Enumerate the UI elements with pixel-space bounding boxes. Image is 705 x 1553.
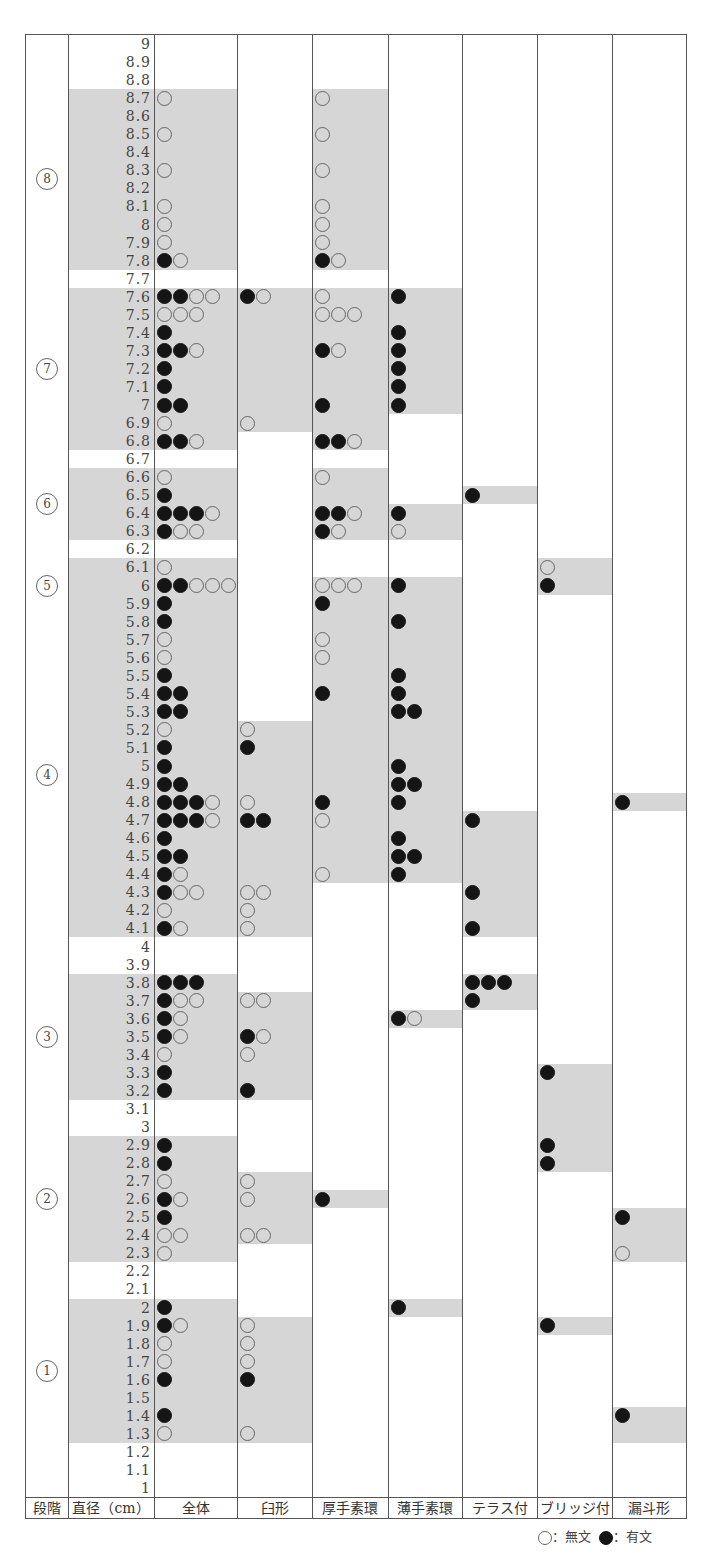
open-circle-icon <box>256 885 271 900</box>
open-circle-icon <box>256 1228 271 1243</box>
open-circle-icon <box>189 524 204 539</box>
filled-circle-icon <box>240 813 255 828</box>
open-circle-icon <box>315 163 330 178</box>
filled-circle-icon <box>157 1318 172 1333</box>
stage-label: 1 <box>36 1360 58 1382</box>
stage-label: 6 <box>36 493 58 515</box>
diameter-label: 8.6 <box>70 107 151 125</box>
open-circle-icon <box>615 1246 630 1261</box>
filled-circle-icon <box>465 813 480 828</box>
diameter-label: 8.5 <box>70 125 151 143</box>
diameter-label: 1.2 <box>70 1443 151 1461</box>
header-all: 全体 <box>154 1498 237 1518</box>
legend-filled-label: ：有文 <box>613 1529 652 1544</box>
open-circle-icon <box>205 795 220 810</box>
shade-band <box>313 577 388 884</box>
open-circle-icon <box>157 91 172 106</box>
diameter-label: 4.9 <box>70 775 151 793</box>
filled-circle-icon <box>157 1138 172 1153</box>
diameter-label: 4.3 <box>70 883 151 901</box>
column-divider <box>612 34 613 1518</box>
legend: ：無文 ：有文 <box>538 1526 652 1545</box>
filled-circle-icon <box>391 867 406 882</box>
diameter-label: 4.8 <box>70 793 151 811</box>
filled-circle-icon <box>599 1531 613 1545</box>
filled-circle-icon <box>157 921 172 936</box>
open-circle-icon <box>173 524 188 539</box>
diameter-label: 3.4 <box>70 1046 151 1064</box>
diameter-label: 2.2 <box>70 1262 151 1280</box>
open-circle-icon <box>189 885 204 900</box>
diameter-label: 7.3 <box>70 342 151 360</box>
diameter-label: 7.9 <box>70 234 151 252</box>
diameter-label: 6.4 <box>70 504 151 522</box>
open-circle-icon <box>205 578 220 593</box>
diameter-label: 2 <box>70 1299 151 1317</box>
filled-circle-icon <box>391 1300 406 1315</box>
stage-label: 3 <box>36 1026 58 1048</box>
filled-circle-icon <box>157 813 172 828</box>
diameter-distribution-chart: 98.98.88.78.68.58.48.38.28.187.97.87.77.… <box>0 0 705 1553</box>
filled-circle-icon <box>157 867 172 882</box>
filled-circle-icon <box>315 795 330 810</box>
filled-circle-icon <box>465 885 480 900</box>
filled-circle-icon <box>407 849 422 864</box>
open-circle-icon <box>240 885 255 900</box>
diameter-label: 1.1 <box>70 1461 151 1479</box>
open-circle-icon <box>315 127 330 142</box>
open-circle-icon <box>315 217 330 232</box>
diameter-label: 7.8 <box>70 252 151 270</box>
filled-circle-icon <box>465 488 480 503</box>
column-divider <box>154 34 155 1518</box>
filled-circle-icon <box>173 398 188 413</box>
header-terrace: テラス付 <box>462 1498 537 1518</box>
filled-circle-icon <box>540 1138 555 1153</box>
filled-circle-icon <box>173 777 188 792</box>
filled-circle-icon <box>157 488 172 503</box>
diameter-label: 2.1 <box>70 1280 151 1298</box>
open-circle-icon <box>331 524 346 539</box>
open-circle-icon <box>189 434 204 449</box>
filled-circle-icon <box>157 506 172 521</box>
diameter-label: 1.8 <box>70 1335 151 1353</box>
diameter-label: 5.4 <box>70 685 151 703</box>
open-circle-icon <box>189 578 204 593</box>
open-circle-icon <box>240 1318 255 1333</box>
diameter-label: 3.8 <box>70 974 151 992</box>
filled-circle-icon <box>157 596 172 611</box>
filled-circle-icon <box>157 578 172 593</box>
filled-circle-icon <box>391 614 406 629</box>
filled-circle-icon <box>615 795 630 810</box>
diameter-label: 3.3 <box>70 1064 151 1082</box>
diameter-label: 4.7 <box>70 811 151 829</box>
diameter-label: 1.7 <box>70 1353 151 1371</box>
open-circle-icon <box>157 127 172 142</box>
diameter-label: 3.2 <box>70 1082 151 1100</box>
open-circle-icon <box>331 253 346 268</box>
open-circle-icon <box>240 903 255 918</box>
open-circle-icon <box>240 1228 255 1243</box>
diameter-label: 2.9 <box>70 1136 151 1154</box>
header-diameter: 直径（cm） <box>68 1498 154 1518</box>
diameter-label: 8.4 <box>70 143 151 161</box>
open-circle-icon <box>221 578 236 593</box>
diameter-label: 6.1 <box>70 558 151 576</box>
filled-circle-icon <box>173 795 188 810</box>
open-circle-icon <box>315 867 330 882</box>
open-circle-icon <box>315 813 330 828</box>
diameter-label: 8.8 <box>70 71 151 89</box>
diameter-label: 4 <box>70 938 151 956</box>
diameter-label: 3.7 <box>70 992 151 1010</box>
diameter-label: 8.7 <box>70 89 151 107</box>
open-circle-icon <box>157 163 172 178</box>
diameter-label: 7.1 <box>70 378 151 396</box>
stage-label: 4 <box>36 764 58 786</box>
diameter-label: 7.4 <box>70 324 151 342</box>
diameter-label: 7 <box>70 396 151 414</box>
column-divider <box>388 34 389 1518</box>
diameter-label: 6.2 <box>70 540 151 558</box>
open-circle-icon <box>157 217 172 232</box>
open-circle-icon <box>157 1336 172 1351</box>
open-circle-icon <box>173 1192 188 1207</box>
filled-circle-icon <box>331 506 346 521</box>
